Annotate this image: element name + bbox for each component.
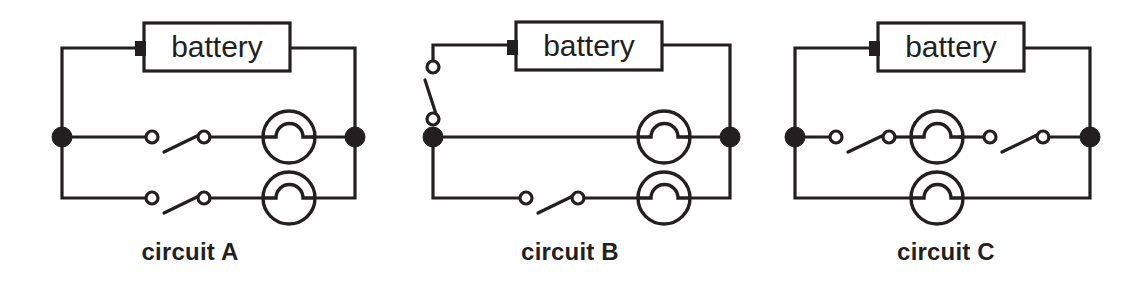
circuit-a-schematic: battery <box>0 0 380 240</box>
wire-bottom-left-b <box>433 137 520 198</box>
junction-node-left-c <box>785 127 805 147</box>
junction-node-left-a <box>52 127 72 147</box>
switch-lever-a2[interactable] <box>164 196 199 213</box>
battery-label-b: battery <box>543 29 635 62</box>
junction-node-right-c <box>1080 127 1100 147</box>
switch-terminal-right-a2[interactable] <box>198 192 210 204</box>
switch-lever-c2[interactable] <box>1002 135 1037 152</box>
junction-node-right-a <box>345 127 365 147</box>
wire-top-left-a <box>62 48 137 137</box>
switch-terminal-left-b2[interactable] <box>520 192 532 204</box>
switch-terminal-left-c1[interactable] <box>830 131 842 143</box>
switch-terminal-right-a1[interactable] <box>198 131 210 143</box>
switch-lever-b2[interactable] <box>538 196 573 213</box>
switch-lever-a1[interactable] <box>164 135 199 152</box>
battery-terminal-nub-b <box>508 41 517 54</box>
circuit-c-schematic: battery <box>756 0 1136 240</box>
circuit-figure: battery circuit A <box>0 0 1136 293</box>
switch-terminal-right-c1[interactable] <box>883 131 895 143</box>
switch-lever-c1[interactable] <box>848 135 884 152</box>
battery-terminal-nub-a <box>136 42 145 55</box>
junction-node-right-b <box>720 127 740 147</box>
switch-terminal-top-b1[interactable] <box>427 61 439 73</box>
switch-terminal-left-c2[interactable] <box>984 131 996 143</box>
wire-bottom-left-c <box>795 137 911 198</box>
switch-terminal-left-a1[interactable] <box>146 131 158 143</box>
switch-terminal-right-c2[interactable] <box>1037 131 1049 143</box>
battery-label-c: battery <box>905 30 997 63</box>
wire-top-left-c <box>795 48 871 137</box>
wire-top-right-c <box>1021 48 1090 137</box>
battery-terminal-nub-c <box>870 42 879 55</box>
junction-node-left-b <box>423 127 443 147</box>
circuit-caption-a: circuit A <box>0 238 380 266</box>
wire-bottom-left-a <box>62 137 148 198</box>
switch-terminal-left-a2[interactable] <box>146 192 158 204</box>
circuit-caption-b: circuit B <box>380 238 760 266</box>
battery-label-a: battery <box>171 30 263 63</box>
switch-terminal-right-b2[interactable] <box>572 192 584 204</box>
wire-bottom-right-c <box>963 137 1090 198</box>
circuit-diagram-b: battery circuit B <box>380 0 760 293</box>
switch-terminal-bottom-b1[interactable] <box>427 113 439 125</box>
circuit-b-schematic: battery <box>380 0 760 240</box>
circuit-caption-c: circuit C <box>756 238 1136 266</box>
wire-top-left-b <box>433 45 509 61</box>
circuit-diagram-a: battery circuit A <box>0 0 380 293</box>
circuit-diagram-c: battery circuit C <box>756 0 1136 293</box>
switch-lever-b1[interactable] <box>425 80 436 114</box>
